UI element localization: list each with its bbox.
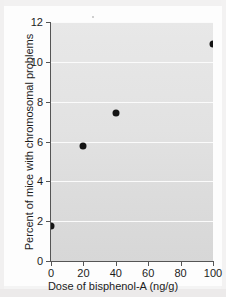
gridline	[51, 102, 213, 103]
x-axis-line	[51, 261, 214, 262]
y-axis-tick-label: 4	[0, 175, 43, 187]
data-point	[210, 40, 214, 47]
y-axis-tick	[46, 102, 50, 103]
x-axis-tick	[83, 262, 84, 266]
x-axis-tick-label: 40	[110, 267, 122, 279]
y-axis-tick-label: 0	[0, 255, 43, 267]
gridline	[51, 22, 213, 23]
x-axis-tick	[213, 262, 214, 266]
plot-area	[51, 22, 213, 261]
y-axis-tick	[46, 221, 50, 222]
data-point	[80, 143, 87, 150]
gridline	[51, 142, 213, 143]
y-axis-tick-label: 10	[0, 56, 43, 68]
x-axis-tick	[181, 262, 182, 266]
y-axis-tick	[46, 181, 50, 182]
data-point	[112, 109, 119, 116]
x-axis-tick-label: 0	[48, 267, 54, 279]
y-axis-tick-label: 2	[0, 215, 43, 227]
x-axis-tick	[148, 262, 149, 266]
x-axis-tick-label: 100	[204, 267, 222, 279]
chart-figure: 024681012 020406080100 Percent of mice w…	[0, 0, 226, 297]
y-axis-tick	[46, 22, 50, 23]
x-axis-tick	[51, 262, 52, 266]
x-axis-tick-label: 60	[142, 267, 154, 279]
gridline	[51, 221, 213, 222]
gridline	[51, 62, 213, 63]
y-axis-tick-label: 6	[0, 136, 43, 148]
x-axis-tick-label: 20	[77, 267, 89, 279]
x-axis-tick	[116, 262, 117, 266]
data-point	[51, 223, 55, 230]
y-axis-title: Percent of mice with chromosomal problem…	[23, 17, 35, 267]
y-axis-tick	[46, 62, 50, 63]
y-axis-tick	[46, 142, 50, 143]
x-axis-tick-label: 80	[174, 267, 186, 279]
paper-speck	[92, 16, 94, 18]
x-axis-title: Dose of bisphenol-A (ng/g)	[0, 280, 226, 292]
y-axis-tick-label: 12	[0, 16, 43, 28]
y-axis-line	[50, 22, 51, 262]
y-axis-tick	[46, 261, 50, 262]
gridline	[51, 181, 213, 182]
y-axis-tick-label: 8	[0, 96, 43, 108]
